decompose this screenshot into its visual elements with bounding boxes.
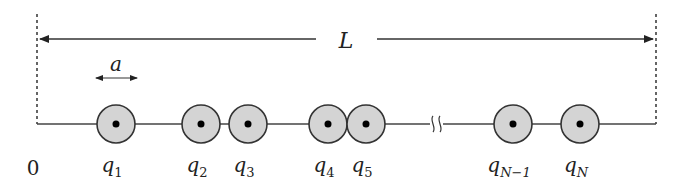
charge-2: q2	[182, 105, 220, 180]
charge-label: q3	[233, 153, 254, 180]
charge-center-dot	[325, 121, 332, 128]
break-marker-icon	[432, 116, 441, 132]
length-label: L	[338, 28, 354, 53]
charge-center-dot	[198, 121, 205, 128]
origin-label: 0	[27, 156, 40, 180]
charge-center-dot	[113, 121, 120, 128]
charge-label: qN−1	[487, 153, 530, 180]
charge-4: q4	[309, 105, 347, 180]
charge-label: q4	[313, 153, 334, 180]
charge-label: qN	[564, 153, 589, 180]
spacing-label: a	[110, 52, 122, 76]
charge-center-dot	[577, 121, 584, 128]
charge-label: q1	[101, 153, 122, 180]
charge-chain-diagram: L a q1q2q3q4q5qN−1qN 0	[0, 0, 685, 191]
charge-center-dot	[510, 121, 517, 128]
charge-1: q1	[97, 105, 135, 180]
charge-6: qN−1	[487, 105, 532, 180]
charge-label: q5	[351, 153, 372, 180]
charge-3: q3	[229, 105, 267, 180]
charge-center-dot	[245, 121, 252, 128]
charge-7: qN	[561, 105, 599, 180]
charge-label: q2	[186, 153, 207, 180]
charge-5: q5	[347, 105, 385, 180]
charge-center-dot	[363, 121, 370, 128]
